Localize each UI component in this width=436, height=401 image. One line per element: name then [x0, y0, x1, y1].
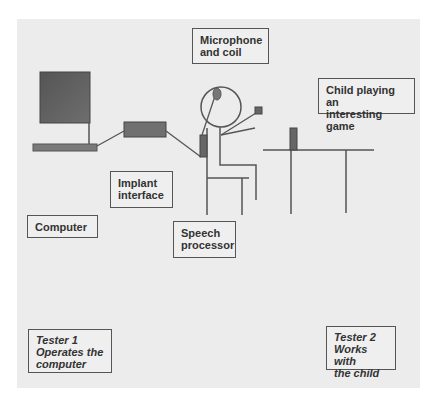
cable-computer-interface [97, 131, 124, 146]
cable-mic-processor [202, 96, 215, 135]
child-hand-object [255, 107, 262, 114]
speech-processor-device [200, 135, 207, 157]
computer-monitor [40, 72, 90, 123]
label-tester-1: Tester 1 Operates the computer [28, 329, 112, 373]
game-object [290, 128, 297, 150]
child-body [220, 127, 256, 200]
label-tester-2: Tester 2 Works with the child [326, 326, 396, 370]
implant-interface-device [124, 122, 166, 137]
label-microphone-coil: Microphone and coil [192, 28, 269, 64]
computer-keyboard [33, 144, 97, 151]
cable-interface-processor [166, 131, 201, 157]
label-computer: Computer [27, 215, 98, 238]
microphone-coil-icon [213, 88, 221, 100]
label-implant-interface: Implant interface [110, 171, 173, 208]
label-child-game: Child playing an interesting game [318, 78, 415, 114]
label-speech-processor: Speech processor [173, 221, 236, 258]
